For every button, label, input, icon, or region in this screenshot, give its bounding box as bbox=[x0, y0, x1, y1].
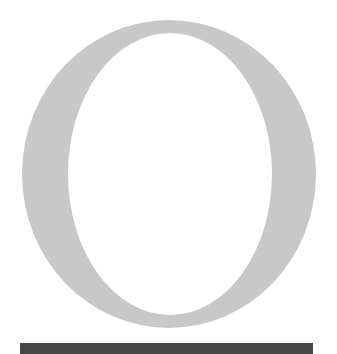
letter-o-glyph: O bbox=[0, 0, 337, 354]
letter-o-graphic bbox=[0, 0, 337, 354]
underline-bar bbox=[20, 343, 313, 354]
letter-o-ring bbox=[22, 20, 316, 328]
